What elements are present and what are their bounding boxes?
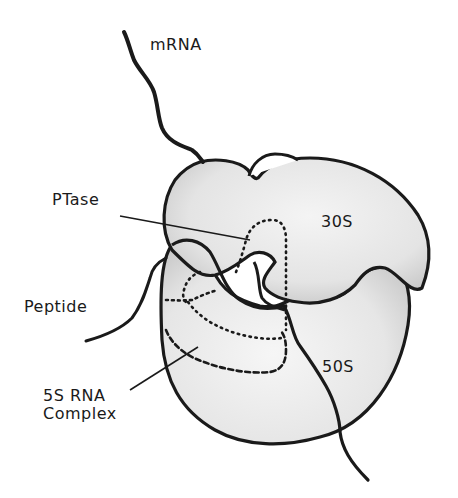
ribosome-diagram: mRNA PTase 30S Peptide 50S 5S RNA Comple… [0,0,458,498]
label-5s-line2: Complex [43,405,117,423]
label-peptide: Peptide [24,298,87,316]
label-ptase: PTase [52,191,99,209]
label-30s-subunit: 30S [321,213,353,231]
label-50s-subunit: 50S [322,358,354,376]
label-5s-line1: 5S RNA [43,387,117,405]
label-mrna: mRNA [150,36,202,54]
label-5s-rna-complex: 5S RNA Complex [43,387,117,424]
peptide-strand [86,258,166,341]
